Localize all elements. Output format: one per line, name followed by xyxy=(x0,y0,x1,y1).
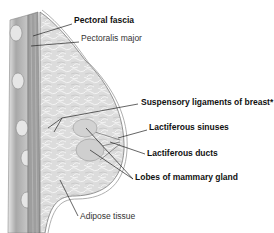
label-lobes-mammary-gland: Lobes of mammary gland xyxy=(135,172,238,182)
label-suspensory-ligaments: Suspensory ligaments of breast* xyxy=(141,97,273,107)
label-adipose-tissue: Adipose tissue xyxy=(80,211,135,221)
label-lactiferous-ducts: Lactiferous ducts xyxy=(147,148,218,158)
label-pectoral-fascia: Pectoral fascia xyxy=(74,15,134,25)
label-pectoralis-major: Pectoralis major xyxy=(81,33,142,43)
label-lactiferous-sinuses: Lactiferous sinuses xyxy=(149,122,229,132)
